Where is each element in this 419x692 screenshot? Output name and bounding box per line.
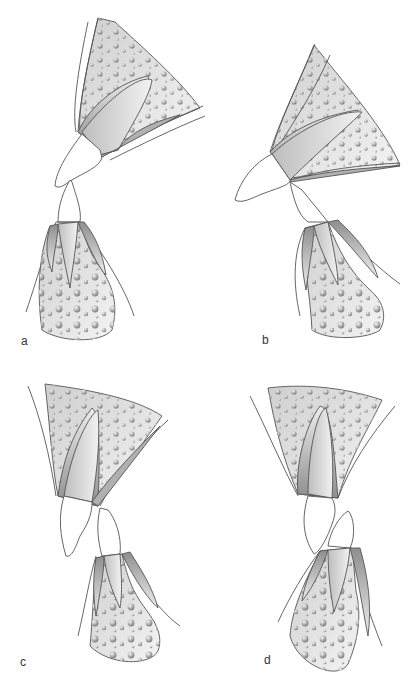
- upper-jaw: [75, 18, 205, 160]
- upper-jaw: [250, 386, 395, 498]
- lower-incisor-crown: [98, 508, 121, 556]
- incisor-diagram-b: [210, 0, 419, 346]
- lower-jaw: [278, 548, 382, 671]
- lower-jaw: [26, 222, 134, 340]
- incisor-diagram-c: [0, 346, 210, 692]
- panel-d: d: [210, 346, 419, 692]
- panel-c: c: [0, 346, 210, 692]
- upper-incisor-crown: [60, 496, 92, 556]
- panel-a: a: [0, 0, 210, 346]
- upper-jaw: [270, 44, 400, 182]
- incisor-diagram-d: [210, 346, 419, 692]
- upper-jaw: [28, 384, 168, 506]
- incisor-diagram-a: [0, 0, 210, 346]
- panel-label-c: c: [20, 655, 26, 669]
- lower-incisor-crown: [290, 182, 328, 222]
- panel-label-b: b: [262, 333, 269, 347]
- lower-jaw: [78, 552, 180, 662]
- lower-jaw: [295, 220, 400, 338]
- panel-label-d: d: [264, 653, 271, 667]
- panel-b: b: [210, 0, 419, 346]
